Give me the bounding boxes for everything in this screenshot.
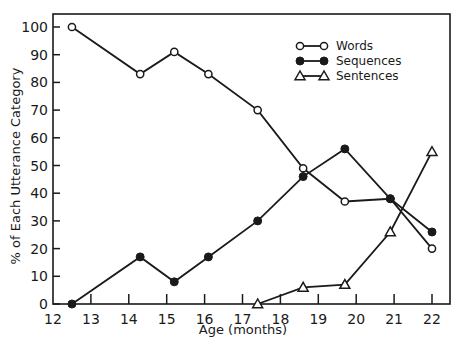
open-circle-marker bbox=[137, 70, 144, 77]
open-circle-marker bbox=[171, 48, 178, 55]
open-triangle-marker bbox=[385, 227, 395, 236]
filled-circle-marker bbox=[254, 217, 262, 225]
open-circle-marker bbox=[428, 245, 435, 252]
legend: WordsSequencesSentences bbox=[295, 39, 401, 83]
legend-label: Words bbox=[336, 39, 373, 53]
series-line bbox=[72, 149, 432, 304]
open-circle-marker bbox=[254, 107, 261, 114]
series-sequences bbox=[68, 145, 436, 308]
y-tick-label: 50 bbox=[30, 158, 48, 174]
y-tick-label: 40 bbox=[30, 185, 48, 201]
y-tick-label: 10 bbox=[30, 268, 48, 284]
y-tick-label: 70 bbox=[30, 102, 48, 118]
filled-circle-marker bbox=[341, 145, 349, 153]
y-tick-label: 30 bbox=[30, 213, 48, 229]
filled-circle-marker bbox=[299, 173, 307, 181]
filled-circle-marker bbox=[68, 300, 76, 308]
x-tick-label: 20 bbox=[347, 311, 365, 327]
open-circle-marker bbox=[68, 23, 75, 30]
x-tick-label: 21 bbox=[385, 311, 403, 327]
y-tick-label: 0 bbox=[39, 296, 48, 312]
x-tick-label: 14 bbox=[120, 311, 138, 327]
legend-item-sentences: Sentences bbox=[295, 69, 399, 83]
x-tick-label: 15 bbox=[158, 311, 176, 327]
y-axis: 0102030405060708090100 bbox=[21, 19, 60, 312]
y-tick-label: 20 bbox=[30, 241, 48, 257]
legend-item-sequences: Sequences bbox=[296, 54, 401, 68]
legend-item-words: Words bbox=[296, 39, 373, 53]
filled-circle-marker bbox=[428, 228, 436, 236]
x-tick-label: 12 bbox=[44, 311, 62, 327]
open-circle-marker bbox=[205, 70, 212, 77]
x-tick-label: 22 bbox=[423, 311, 441, 327]
series-sentences bbox=[253, 147, 437, 308]
open-circle-marker bbox=[296, 42, 303, 49]
x-axis-title: Age (months) bbox=[199, 322, 287, 337]
x-tick-label: 19 bbox=[309, 311, 327, 327]
y-tick-label: 60 bbox=[30, 130, 48, 146]
filled-circle-marker bbox=[204, 253, 212, 261]
x-tick-label: 13 bbox=[82, 311, 100, 327]
filled-circle-marker bbox=[136, 253, 144, 261]
line-chart: 0102030405060708090100 12131415161718192… bbox=[0, 0, 462, 348]
filled-circle-marker bbox=[170, 278, 178, 286]
open-circle-marker bbox=[300, 165, 307, 172]
filled-circle-marker bbox=[386, 195, 394, 203]
y-tick-label: 90 bbox=[30, 47, 48, 63]
y-tick-label: 100 bbox=[21, 19, 48, 35]
legend-label: Sentences bbox=[336, 69, 399, 83]
y-axis-title: % of Each Utterance Category bbox=[8, 67, 23, 264]
open-circle-marker bbox=[341, 198, 348, 205]
filled-circle-marker bbox=[296, 57, 304, 65]
open-circle-marker bbox=[320, 42, 327, 49]
legend-label: Sequences bbox=[336, 54, 401, 68]
filled-circle-marker bbox=[320, 57, 328, 65]
y-tick-label: 80 bbox=[30, 74, 48, 90]
open-triangle-marker bbox=[427, 147, 437, 156]
